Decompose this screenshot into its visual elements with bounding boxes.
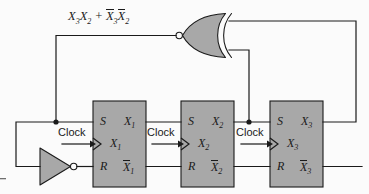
expr-term1-a: X [68, 9, 76, 23]
flipflop-3-state-label: X3 [287, 137, 298, 152]
flipflop-2-state-label: X2 [198, 137, 209, 152]
flipflop-3-clock-label: Clock [236, 127, 264, 138]
flipflop-1-q-label: X1 [124, 115, 135, 130]
flipflop-2-clock-label: Clock [147, 127, 175, 138]
nor-gate-output-bubble [176, 32, 182, 38]
flipflop-1-state-label: X1 [110, 137, 121, 152]
flipflop-2-reset-label: R [188, 160, 195, 172]
expr-term2-a: X [106, 9, 114, 23]
circuit-diagram: X3X2 + X3X2 S R X1 X1 X1 Clock S R X2 X2… [0, 0, 369, 194]
nor-gate-back-arc [224, 14, 232, 58]
feedback-expression-label: X3X2 + X3X2 [68, 9, 129, 26]
inverter-body[interactable] [40, 148, 71, 185]
flipflop-3-q-label: X3 [301, 115, 312, 130]
expr-term1-b-sub: 2 [87, 17, 91, 26]
flipflop-1-clock-label: Clock [58, 127, 86, 138]
junction-dot-s1-rail [53, 119, 58, 124]
flipflop-2-qbar-label: X2 [211, 160, 222, 176]
nor-gate-body[interactable] [183, 14, 226, 58]
flipflop-2-set-label: S [188, 115, 194, 127]
expr-term2-b-sub: 2 [125, 17, 129, 26]
flipflop-1-qbar-label: X1 [123, 160, 134, 176]
flipflop-3-set-label: S [277, 115, 283, 127]
expr-operator: + [94, 9, 102, 23]
scan-artifact-mark [0, 178, 6, 179]
flipflop-1-reset-label: R [100, 160, 107, 172]
flipflop-1-set-label: S [100, 115, 106, 127]
flipflop-3-reset-label: R [277, 160, 284, 172]
flipflop-2-q-label: X2 [212, 115, 223, 130]
flipflop-3-qbar-label: X3 [300, 160, 311, 176]
inverter-output-bubble [71, 163, 77, 169]
junction-dot-x2-rail [246, 119, 251, 124]
circuit-wiring-layer [0, 0, 369, 194]
